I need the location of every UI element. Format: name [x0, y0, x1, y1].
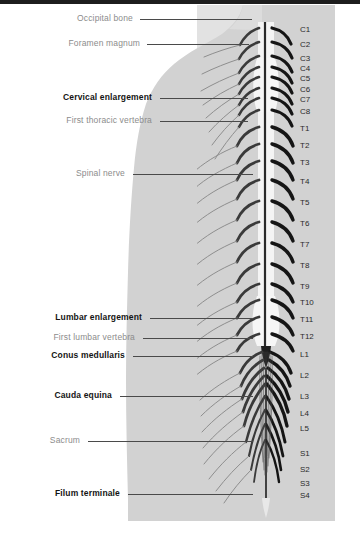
leader-line: [147, 44, 249, 45]
anatomy-label-occipital-bone: Occipital bone: [0, 14, 133, 23]
vertebral-level-c8: C8: [300, 108, 310, 116]
anatomy-label-first-thoracic-vertebra: First thoracic vertebra: [0, 116, 152, 125]
vertebral-level-c3: C3: [300, 55, 310, 63]
leader-line: [133, 174, 253, 175]
illustration-panel: [197, 5, 335, 521]
vertebral-level-c1: C1: [300, 26, 310, 34]
anatomy-label-spinal-nerve: Spinal nerve: [0, 169, 125, 178]
vertebral-level-t6: T6: [300, 220, 309, 228]
leader-line: [143, 338, 253, 339]
anatomy-label-cauda-equina: Cauda equina: [0, 391, 112, 400]
leader-line: [150, 318, 253, 319]
vertebral-level-l4: L4: [300, 410, 309, 418]
vertebral-level-t11: T11: [300, 316, 313, 324]
vertebral-level-t8: T8: [300, 262, 309, 270]
vertebral-level-c4: C4: [300, 65, 310, 73]
leader-line: [133, 356, 253, 357]
leader-line: [128, 494, 253, 495]
leader-line: [160, 98, 248, 99]
vertebral-level-l2: L2: [300, 372, 309, 380]
anatomy-label-lumbar-enlargement: Lumbar enlargement: [0, 313, 142, 322]
anatomy-label-sacrum: Sacrum: [0, 436, 80, 445]
vertebral-level-s3: S3: [300, 480, 310, 488]
vertebral-level-l3: L3: [300, 393, 309, 401]
vertebral-level-t7: T7: [300, 241, 309, 249]
vertebral-level-s2: S2: [300, 466, 310, 474]
vertebral-level-c5: C5: [300, 75, 310, 83]
anatomy-label-conus-medullaris: Conus medullaris: [0, 351, 125, 360]
vertebral-level-c7: C7: [300, 96, 310, 104]
anatomy-label-filum-terminale: Filum terminale: [0, 489, 120, 498]
leader-line: [120, 396, 253, 397]
anatomy-label-first-lumbar-vertebra: First lumbar vertebra: [0, 333, 135, 342]
leader-line: [88, 441, 253, 442]
leader-line: [160, 121, 248, 122]
leader-line: [140, 19, 252, 20]
vertebral-level-t1: T1: [300, 125, 309, 133]
spinal-cord-figure: Occipital boneForamen magnumCervical enl…: [0, 0, 360, 548]
vertebral-level-t9: T9: [300, 283, 309, 291]
vertebral-level-c2: C2: [300, 41, 310, 49]
vertebral-level-s1: S1: [300, 450, 310, 458]
vertebral-level-t2: T2: [300, 142, 309, 150]
vertebral-level-t5: T5: [300, 199, 309, 207]
vertebral-level-l1: L1: [300, 351, 309, 359]
vertebral-level-t12: T12: [300, 333, 314, 341]
anatomy-label-foramen-magnum: Foramen magnum: [0, 39, 140, 48]
anatomy-label-cervical-enlargement: Cervical enlargement: [0, 93, 152, 102]
vertebral-level-c6: C6: [300, 86, 310, 94]
vertebral-level-l5: L5: [300, 425, 309, 433]
vertebral-level-t3: T3: [300, 159, 309, 167]
vertebral-level-s4: S4: [300, 492, 310, 500]
vertebral-level-t4: T4: [300, 178, 309, 186]
top-rule-divider: [0, 0, 360, 4]
vertebral-level-t10: T10: [300, 299, 314, 307]
